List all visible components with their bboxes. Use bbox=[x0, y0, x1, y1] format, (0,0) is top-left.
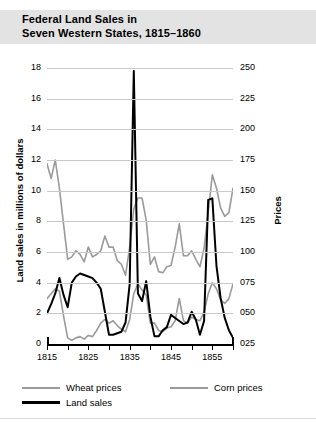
corn-line-swatch-icon bbox=[170, 387, 208, 389]
y-axis-right-tick-label: 100 bbox=[240, 247, 266, 256]
gridlines bbox=[47, 68, 233, 344]
x-axis-tick-label: 1825 bbox=[73, 352, 103, 362]
x-axis-tick bbox=[212, 344, 213, 350]
x-axis-tick bbox=[88, 344, 89, 350]
gridline bbox=[47, 221, 233, 222]
gridline bbox=[47, 283, 233, 284]
wheat-line-swatch-icon bbox=[22, 387, 60, 389]
chart-legend: Wheat prices Corn prices Land sales bbox=[22, 382, 302, 412]
y-axis-right-tick-label: 250 bbox=[240, 63, 266, 72]
y-axis-right-title: Prices bbox=[272, 166, 283, 256]
y-axis-right-tick-label: 200 bbox=[240, 124, 266, 133]
x-axis-tick bbox=[192, 344, 193, 350]
chart-title: Federal Land Sales in Seven Western Stat… bbox=[22, 12, 201, 40]
x-axis-tick bbox=[47, 344, 48, 350]
gridline bbox=[47, 99, 233, 100]
legend-label-corn: Corn prices bbox=[214, 382, 263, 393]
gridline bbox=[47, 252, 233, 253]
x-axis-tick-label: 1815 bbox=[32, 352, 62, 362]
x-axis-line bbox=[47, 344, 234, 346]
y-axis-left-tick-label: 0 bbox=[19, 339, 41, 348]
y-axis-right-tick-label: 175 bbox=[240, 155, 266, 164]
gridline bbox=[47, 191, 233, 192]
y-axis-right-tick-label: 075 bbox=[240, 278, 266, 287]
legend-label-wheat: Wheat prices bbox=[66, 382, 121, 393]
y-axis-right-tick-label: 225 bbox=[240, 94, 266, 103]
y-axis-right-tick-label: 150 bbox=[240, 186, 266, 195]
gridline bbox=[47, 160, 233, 161]
y-axis-left-title: Land sales in millions of dollars bbox=[14, 116, 25, 306]
legend-item-land-sales: Land sales bbox=[22, 397, 112, 408]
bottom-divider bbox=[0, 418, 316, 419]
land-line-swatch-icon bbox=[22, 401, 60, 404]
x-axis-tick bbox=[68, 344, 69, 350]
legend-item-corn-prices: Corn prices bbox=[170, 382, 263, 393]
x-axis-tick-label: 1855 bbox=[197, 352, 227, 362]
legend-label-land: Land sales bbox=[66, 397, 112, 408]
x-axis-tick-label: 1845 bbox=[156, 352, 186, 362]
x-axis-tick bbox=[109, 344, 110, 350]
y-axis-left-tick-label: 16 bbox=[19, 94, 41, 103]
y-axis-right-tick-label: 050 bbox=[240, 308, 266, 317]
gridline bbox=[47, 68, 233, 69]
legend-item-wheat-prices: Wheat prices bbox=[22, 382, 121, 393]
y-axis-right-tick-label: 125 bbox=[240, 216, 266, 225]
x-axis-tick bbox=[130, 344, 131, 350]
gridline bbox=[47, 129, 233, 130]
plot-area bbox=[47, 68, 233, 344]
x-axis-tick-label: 1835 bbox=[115, 352, 145, 362]
y-axis-left-tick-label: 18 bbox=[19, 63, 41, 72]
x-axis-tick bbox=[233, 344, 234, 350]
x-axis-tick bbox=[171, 344, 172, 350]
gridline bbox=[47, 313, 233, 314]
x-axis-tick bbox=[150, 344, 151, 350]
y-axis-right-tick-label: 025 bbox=[240, 339, 266, 348]
chart-figure: Federal Land Sales in Seven Western Stat… bbox=[0, 0, 316, 428]
y-axis-left-tick-label: 2 bbox=[19, 308, 41, 317]
